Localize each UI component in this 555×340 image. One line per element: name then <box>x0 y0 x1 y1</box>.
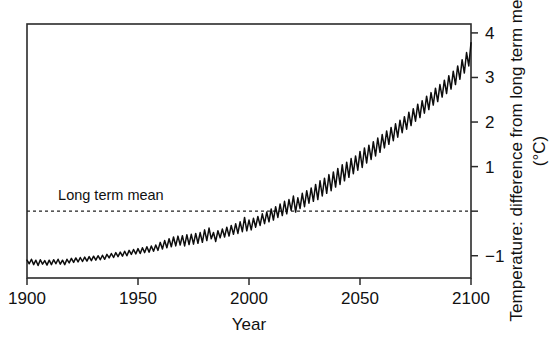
x-tick-label: 1900 <box>8 289 46 308</box>
annotations: Long term mean <box>58 187 164 203</box>
plot-frame-rect <box>27 24 471 278</box>
y-tick-label: 4 <box>485 24 494 43</box>
y-tick-label: 1 <box>485 158 494 177</box>
y-tick-label: −1 <box>485 247 504 266</box>
axis-titles: Year Temperature: difference from long t… <box>232 0 549 334</box>
data-series <box>27 43 471 266</box>
long-term-mean-label: Long term mean <box>58 187 164 203</box>
x-tick-label: 2000 <box>230 289 268 308</box>
y-tick-label: 2 <box>485 113 494 132</box>
x-tick-label: 2100 <box>452 289 490 308</box>
y-axis-ticks: −11234 <box>471 24 504 266</box>
x-axis-ticks: 19001950200020502100 <box>8 278 490 308</box>
temperature-series-line <box>27 43 471 266</box>
y-tick-label: 3 <box>485 68 494 87</box>
x-tick-label: 1950 <box>119 289 157 308</box>
y-axis-units-label: (°C) <box>530 136 549 166</box>
x-tick-label: 2050 <box>341 289 379 308</box>
y-axis-title: Temperature: difference from long term m… <box>507 0 526 321</box>
chart-figure: 19001950200020502100 −11234 Long term me… <box>0 0 555 340</box>
x-axis-title: Year <box>232 315 267 334</box>
plot-frame <box>27 24 471 278</box>
temperature-anomaly-chart: 19001950200020502100 −11234 Long term me… <box>0 0 555 340</box>
